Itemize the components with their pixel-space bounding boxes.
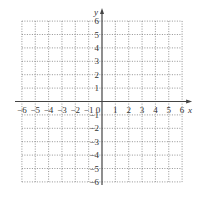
y-tick-label: 1 [95,83,100,93]
y-tick-label: −5 [89,164,99,174]
x-tick-labels: −6−5−4−3−2−10123456 [17,105,185,115]
x-tick-label: 2 [126,105,131,115]
coordinate-grid: −6−5−4−3−2−10123456 654321−1−2−3−4−5−6 x… [0,0,202,199]
x-tick-label: −6 [17,105,27,115]
y-tick-label: −2 [89,123,99,133]
y-axis-label: y [93,7,98,17]
x-tick-label: −4 [44,105,54,115]
x-tick-label: −2 [71,105,81,115]
y-tick-label: −6 [89,177,99,187]
y-tick-label: 4 [95,43,100,53]
x-tick-label: −3 [57,105,67,115]
y-tick-label: −4 [89,150,99,160]
axes [15,8,192,185]
x-tick-label: 6 [180,105,185,115]
x-tick-label: 1 [113,105,118,115]
y-tick-label: −1 [89,110,99,120]
y-tick-label: −3 [89,137,99,147]
y-tick-label: 3 [95,56,100,66]
x-tick-label: 5 [167,105,172,115]
x-tick-label: 3 [140,105,145,115]
y-axis-arrow-icon [100,8,104,14]
x-axis-label: x [187,105,192,115]
x-tick-label: −5 [30,105,40,115]
y-tick-label: 6 [95,16,100,26]
y-tick-label: 5 [95,30,100,40]
x-tick-label: 4 [153,105,158,115]
y-tick-label: 2 [95,70,100,80]
x-axis-arrow-icon [186,100,192,104]
